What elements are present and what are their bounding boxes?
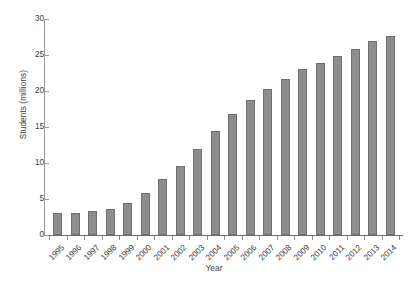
bar-1999: [123, 203, 132, 235]
y-tick-20: [44, 91, 49, 92]
y-tick-label-10: 10: [22, 158, 44, 167]
bar-slot: [382, 19, 400, 235]
bar-slot: [137, 19, 155, 235]
bar-slot: [67, 19, 85, 235]
bar-1998: [106, 209, 115, 235]
y-tick-15: [44, 127, 49, 128]
bar-2014: [386, 36, 395, 235]
bar-slot: [294, 19, 312, 235]
bar-2006: [246, 100, 255, 235]
y-tick-label-15: 15: [22, 122, 44, 131]
y-tick-5: [44, 199, 49, 200]
plot-area: [45, 19, 403, 235]
bar-slot: [172, 19, 190, 235]
x-axis-title: Year: [0, 263, 410, 273]
bar-2005: [228, 114, 237, 235]
bar-slot: [207, 19, 225, 235]
bar-1996: [71, 213, 80, 235]
y-tick-label-5: 5: [22, 194, 44, 203]
bar-slot: [277, 19, 295, 235]
bar-slot: [119, 19, 137, 235]
y-tick-label-30: 30: [22, 14, 44, 23]
bar-slot: [224, 19, 242, 235]
y-tick-label-20: 20: [22, 86, 44, 95]
bar-2003: [193, 149, 202, 235]
bar-2010: [316, 63, 325, 235]
bar-slot: [364, 19, 382, 235]
bar-2013: [368, 41, 377, 235]
bar-slot: [154, 19, 172, 235]
bar-2009: [298, 69, 307, 235]
y-tick-0: [44, 235, 49, 236]
bar-2004: [211, 131, 220, 235]
bar-slot: [329, 19, 347, 235]
y-tick-30: [44, 19, 49, 20]
bar-1997: [88, 211, 97, 235]
bar-slot: [259, 19, 277, 235]
bar-2002: [176, 166, 185, 235]
bar-2012: [351, 49, 360, 235]
bar-slot: [102, 19, 120, 235]
y-tick-10: [44, 163, 49, 164]
bar-2007: [263, 89, 272, 235]
bar-slot: [242, 19, 260, 235]
y-axis-ticks: 051015202530: [0, 0, 44, 291]
bar-2011: [333, 56, 342, 235]
bar-1995: [53, 213, 62, 235]
bar-2001: [158, 179, 167, 235]
bar-slot: [189, 19, 207, 235]
y-tick-label-25: 25: [22, 50, 44, 59]
bar-slot: [49, 19, 67, 235]
bar-slot: [84, 19, 102, 235]
bar-series: [45, 19, 403, 235]
y-tick-25: [44, 55, 49, 56]
bar-slot: [347, 19, 365, 235]
bar-2000: [141, 193, 150, 235]
bar-2008: [281, 79, 290, 235]
bar-chart-figure: Students (millions) 051015202530 1995199…: [0, 0, 410, 291]
bar-slot: [312, 19, 330, 235]
y-tick-label-0: 0: [22, 230, 44, 239]
